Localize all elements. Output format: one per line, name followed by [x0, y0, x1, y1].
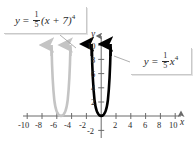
y-tick-label-2: 2 — [91, 97, 95, 107]
parent-label-fraction: 1 5 — [162, 52, 169, 70]
y-tick-label-6: 6 — [91, 69, 95, 79]
parent-label-denominator: 5 — [163, 62, 167, 70]
parent-label-exponent: 4 — [175, 55, 179, 62]
x-tick-label-2: 2 — [113, 120, 117, 130]
parent-label-equals: = — [152, 56, 158, 67]
x-tick-label--6: -6 — [50, 120, 57, 130]
y-tick-label-10: 10 — [87, 41, 96, 51]
shifted-label-equals: = — [23, 15, 29, 26]
x-tick-label-8: 8 — [157, 120, 161, 130]
shifted-label-numerator: 1 — [34, 11, 38, 19]
y-tick-label-4: 4 — [91, 83, 95, 93]
y-tick-label--2: -2 — [87, 126, 94, 136]
shifted-label-body: (x + 7) — [41, 15, 72, 26]
x-axis-label: x — [180, 117, 184, 127]
y-axis — [98, 36, 104, 138]
shifted-curve — [52, 45, 71, 116]
shifted-label-denominator: 5 — [34, 21, 38, 29]
x-tick-label-10: 10 — [169, 120, 178, 130]
parent-label-y: y — [144, 56, 149, 67]
x-tick-label-4: 4 — [128, 120, 132, 130]
x-tick-label--10: -10 — [18, 120, 29, 130]
y-tick-label-8: 8 — [91, 55, 95, 65]
y-axis-label: y — [91, 29, 95, 39]
x-tick-label--8: -8 — [35, 120, 42, 130]
shifted-label-y: y — [15, 15, 20, 26]
shifted-label-exponent: 4 — [72, 14, 76, 21]
x-tick-label--2: -2 — [79, 120, 86, 130]
shifted-curve-label: y = 1 5 (x + 7)4 — [4, 7, 87, 34]
parent-curve-label: y = 1 5 x4 — [131, 48, 192, 75]
x-tick-label--4: -4 — [64, 120, 71, 130]
leader-line-parent — [114, 56, 130, 62]
leader-line-shifted — [60, 35, 76, 48]
x-tick-label-6: 6 — [143, 120, 147, 130]
shifted-label-fraction: 1 5 — [33, 11, 40, 29]
parent-label-numerator: 1 — [163, 52, 167, 60]
figure-container: y = 1 5 (x + 7)4 y = 1 5 x4 y x -10 -8 -… — [0, 0, 194, 144]
